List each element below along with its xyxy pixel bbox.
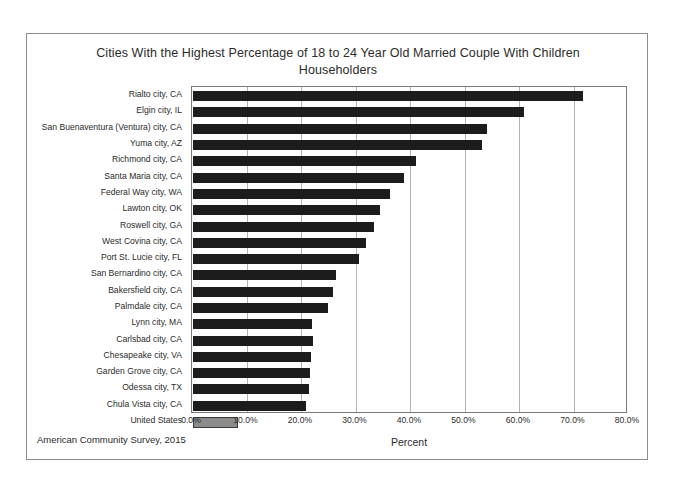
bar-port-st-lucie-city-fl [193,254,359,264]
category-label-row: Lawton city, OK [27,200,187,216]
bars-container [193,88,625,411]
category-label-row: Odessa city, TX [27,379,187,395]
category-label: Chula Vista city, CA [107,399,182,409]
category-label-row: Federal Way city, WA [27,184,187,200]
bar-row [193,349,625,365]
category-label: Chesapeake city, VA [104,350,183,360]
category-label: Odessa city, TX [122,382,182,392]
category-label: Richmond city, CA [112,154,182,164]
x-tick-label: 80.0% [615,415,639,425]
category-label: United States [130,415,182,425]
bar-san-buenaventura-ventura-city-ca [193,124,487,134]
category-label-row: San Buenaventura (Ventura) city, CA [27,119,187,135]
category-label-row: Lynn city, MA [27,314,187,330]
category-label: Yuma city, AZ [130,138,182,148]
x-tick-label: 0.0% [181,415,201,425]
bar-row [193,186,625,202]
x-tick-label: 50.0% [451,415,475,425]
bar-santa-maria-city-ca [193,173,404,183]
category-label: Lawton city, OK [122,203,182,213]
chart-title: Cities With the Highest Percentage of 18… [67,45,609,79]
chart-frame: Cities With the Highest Percentage of 18… [26,33,648,460]
x-tick-label: 30.0% [342,415,366,425]
category-label: Roswell city, GA [120,220,182,230]
category-label: San Buenaventura (Ventura) city, CA [42,122,182,132]
category-label-row: West Covina city, CA [27,233,187,249]
bar-row [193,398,625,414]
category-label: Garden Grove city, CA [96,366,182,376]
x-tick-label: 40.0% [397,415,421,425]
x-tick-label: 70.0% [560,415,584,425]
category-axis-labels: Rialto city, CAElgin city, ILSan Buenave… [27,86,187,413]
category-label: Santa Maria city, CA [104,171,182,181]
source-note: American Community Survey, 2015 [37,434,186,445]
plot-wrapper [191,86,627,413]
bar-lynn-city-ma [193,319,312,329]
bar-san-bernardino-city-ca [193,270,336,280]
bar-row [193,316,625,332]
bar-lawton-city-ok [193,205,380,215]
category-label: Port St. Lucie city, FL [101,252,182,262]
category-label: West Covina city, CA [102,236,182,246]
bar-row [193,218,625,234]
plot-area [191,86,627,413]
category-label: Lynn city, MA [131,317,182,327]
bar-row [193,365,625,381]
x-tick-label: 10.0% [233,415,257,425]
category-label-row: Elgin city, IL [27,102,187,118]
bar-yuma-city-az [193,140,482,150]
category-label-row: San Bernardino city, CA [27,265,187,281]
bar-rialto-city-ca [193,91,583,101]
bar-odessa-city-tx [193,384,309,394]
category-label-row: Bakersfield city, CA [27,282,187,298]
category-label-row: Palmdale city, CA [27,298,187,314]
bar-bakersfield-city-ca [193,287,333,297]
bar-row [193,267,625,283]
bar-roswell-city-ga [193,222,374,232]
category-label-row: Chesapeake city, VA [27,347,187,363]
bar-row [193,202,625,218]
category-label: Palmdale city, CA [115,301,182,311]
bar-carlsbad-city-ca [193,336,313,346]
category-label-row: Port St. Lucie city, FL [27,249,187,265]
category-label-row: Garden Grove city, CA [27,363,187,379]
category-label: Federal Way city, WA [101,187,182,197]
x-tick-label: 20.0% [288,415,312,425]
bar-row [193,300,625,316]
bar-row [193,88,625,104]
x-axis-title: Percent [191,436,627,448]
bar-chesapeake-city-va [193,352,311,362]
category-label-row: Santa Maria city, CA [27,167,187,183]
bar-federal-way-city-wa [193,189,390,199]
bar-row [193,235,625,251]
category-label: Rialto city, CA [129,89,182,99]
bar-palmdale-city-ca [193,303,328,313]
category-label: Bakersfield city, CA [108,285,182,295]
bar-richmond-city-ca [193,156,416,166]
bar-elgin-city-il [193,107,524,117]
bar-row [193,121,625,137]
x-tick-label: 60.0% [506,415,530,425]
bar-row [193,137,625,153]
bar-row [193,381,625,397]
x-axis-tick-labels: 0.0%10.0%20.0%30.0%40.0%50.0%60.0%70.0%8… [191,415,627,431]
category-label-row: Yuma city, AZ [27,135,187,151]
category-label: San Bernardino city, CA [91,268,182,278]
category-label-row: Richmond city, CA [27,151,187,167]
bar-west-covina-city-ca [193,238,366,248]
bar-row [193,104,625,120]
bar-garden-grove-city-ca [193,368,310,378]
bar-row [193,153,625,169]
bar-row [193,284,625,300]
category-label-row: Chula Vista city, CA [27,396,187,412]
bar-row [193,251,625,267]
category-label-row: Carlsbad city, CA [27,330,187,346]
bar-row [193,332,625,348]
bar-chula-vista-city-ca [193,401,306,411]
category-label-row: Roswell city, GA [27,216,187,232]
category-label-row: United States [27,412,187,428]
chart-page: Cities With the Highest Percentage of 18… [0,0,674,485]
bar-row [193,169,625,185]
category-label: Carlsbad city, CA [116,334,182,344]
category-label-row: Rialto city, CA [27,86,187,102]
